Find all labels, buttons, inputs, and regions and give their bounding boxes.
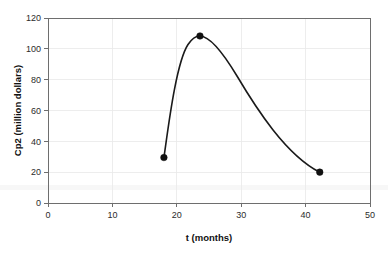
x-tick-label-10: 10 [107, 210, 117, 220]
y-tick-label-80: 80 [31, 75, 41, 85]
x-tick-label-50: 50 [365, 210, 375, 220]
line-chart: 0 20 40 60 80 100 120 0 10 20 30 40 50 t… [0, 0, 388, 256]
data-point-marker-3 [316, 169, 323, 176]
x-tick-label-0: 0 [45, 210, 50, 220]
x-tick-label-20: 20 [172, 210, 182, 220]
data-point-marker-1 [161, 154, 168, 161]
y-tick-label-60: 60 [31, 106, 41, 116]
data-point-marker-2 [197, 33, 204, 40]
y-axis-title: Cp2 (million dollars) [12, 65, 23, 156]
y-tick-label-120: 120 [26, 13, 41, 23]
chart-container: 0 20 40 60 80 100 120 0 10 20 30 40 50 t… [0, 0, 388, 256]
x-axis-title: t (months) [186, 232, 232, 243]
scan-artifact-band [0, 185, 388, 190]
x-tick-label-40: 40 [301, 210, 311, 220]
y-tick-label-40: 40 [31, 137, 41, 147]
y-tick-label-100: 100 [26, 44, 41, 54]
y-tick-label-20: 20 [31, 167, 41, 177]
x-tick-label-30: 30 [236, 210, 246, 220]
y-tick-label-0: 0 [36, 198, 41, 208]
